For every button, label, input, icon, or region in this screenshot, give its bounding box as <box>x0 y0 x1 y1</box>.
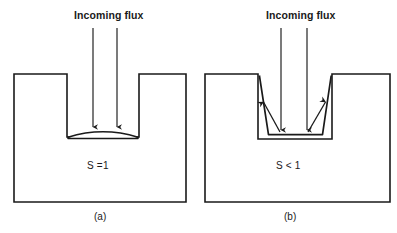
panel-a-sticking-coefficient-label: S =1 <box>87 161 109 171</box>
figure-root: Incoming flux Incoming flux S =1 S < 1 (… <box>0 0 397 233</box>
panel-b-flux-label: Incoming flux <box>266 10 336 21</box>
panel-a-deposited-film <box>68 132 138 139</box>
panel-b-conformal-film <box>259 76 331 135</box>
panel-a-flux-label: Incoming flux <box>74 10 144 21</box>
panel-b-sticking-coefficient-label: S < 1 <box>276 161 301 171</box>
diagram-canvas <box>0 0 397 233</box>
panel-b-substrate-outline <box>205 74 390 202</box>
panel-a-caption: (a) <box>94 212 106 222</box>
panel-b-caption: (b) <box>284 212 296 222</box>
panel-b-group <box>205 28 390 202</box>
panel-a-group <box>14 28 186 202</box>
